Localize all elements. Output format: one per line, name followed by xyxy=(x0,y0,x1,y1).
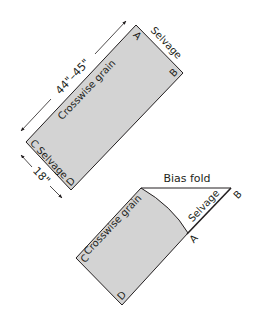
width-dimension-label: 18" xyxy=(30,164,53,187)
width-dimension-line-upper xyxy=(21,155,32,167)
corner-label-a-bottom: A xyxy=(187,232,200,245)
corner-label-b-bottom: B xyxy=(231,188,244,201)
top-panel: 44"–45" 18" A B C D Selvage Selvage Cros… xyxy=(21,21,184,198)
bias-fold-diagram: 44"–45" 18" A B C D Selvage Selvage Cros… xyxy=(0,0,256,323)
width-dimension-line-lower xyxy=(50,186,62,198)
bias-fold-label: Bias fold xyxy=(163,172,210,185)
bottom-panel: Bias fold Selvage A B C D Crosswise grai… xyxy=(76,172,244,305)
